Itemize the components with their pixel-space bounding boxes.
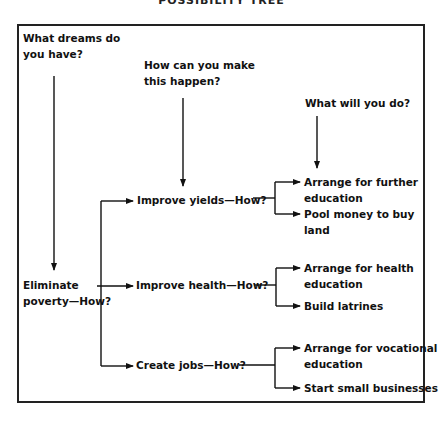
action-build-latrines: Build latrines [304, 298, 383, 314]
action-further-education: Arrange for further education [304, 174, 418, 206]
action-line: Pool money to buy [304, 206, 414, 222]
root-node: Eliminate poverty—How? [23, 277, 111, 309]
question-line: What dreams do [23, 30, 120, 46]
action-line: education [304, 190, 418, 206]
action-line: Start small businesses [304, 380, 438, 396]
action-line: Arrange for further [304, 174, 418, 190]
action-line: Arrange for vocational [304, 340, 437, 356]
action-line: land [304, 222, 414, 238]
action-line: education [304, 276, 414, 292]
action-health-education: Arrange for health education [304, 260, 414, 292]
action-line: Build latrines [304, 298, 383, 314]
question-dreams: What dreams do you have? [23, 30, 120, 62]
node-create-jobs: Create jobs—How? [136, 357, 246, 373]
node-improve-yields: Improve yields—How? [137, 192, 267, 208]
root-line: Eliminate [23, 277, 111, 293]
action-small-businesses: Start small businesses [304, 380, 438, 396]
action-line: education [304, 356, 437, 372]
action-vocational-education: Arrange for vocational education [304, 340, 437, 372]
question-line: this happen? [144, 73, 255, 89]
root-line: poverty—How? [23, 293, 111, 309]
action-pool-money: Pool money to buy land [304, 206, 414, 238]
action-line: Arrange for health [304, 260, 414, 276]
question-how-happen: How can you make this happen? [144, 57, 255, 89]
question-what-do: What will you do? [305, 95, 410, 111]
question-line: you have? [23, 46, 120, 62]
question-line: What will you do? [305, 95, 410, 111]
node-improve-health: Improve health—How? [136, 277, 268, 293]
question-line: How can you make [144, 57, 255, 73]
